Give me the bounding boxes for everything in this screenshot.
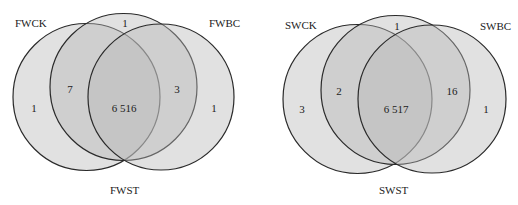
set-label-swck: SWCK: [285, 19, 317, 31]
circle-fwbc: [88, 24, 234, 170]
set-label-swst: SWST: [379, 184, 409, 196]
venn-diagram-fw: FWCK FWST FWBC 1 1 1 7 3 6 516: [13, 14, 240, 197]
region-swck-only: 3: [299, 103, 305, 115]
venn-diagram-sw: SWCK SWST SWBC 3 1 1 2 16 6 517: [283, 16, 511, 197]
region-fwst-only: 1: [122, 17, 128, 29]
region-all-fw: 6 516: [112, 102, 137, 114]
region-fwst-fwbc: 3: [174, 83, 180, 95]
region-swck-swst: 2: [336, 85, 342, 97]
set-label-fwbc: FWBC: [209, 17, 240, 29]
region-fwck-fwst: 7: [67, 83, 73, 95]
region-all-sw: 6 517: [384, 103, 409, 115]
region-fwbc-only: 1: [211, 102, 217, 114]
region-swst-only: 1: [394, 20, 400, 32]
set-label-swbc: SWBC: [480, 20, 511, 32]
set-label-fwck: FWCK: [15, 17, 47, 29]
venn-figure: FWCK FWST FWBC 1 1 1 7 3 6 516 SWCK SWST…: [0, 0, 518, 205]
region-swst-swbc: 16: [447, 85, 459, 97]
set-label-fwst: FWST: [110, 184, 140, 196]
region-swbc-only: 1: [483, 103, 489, 115]
region-fwck-only: 1: [31, 102, 37, 114]
circle-swbc: [358, 25, 506, 173]
